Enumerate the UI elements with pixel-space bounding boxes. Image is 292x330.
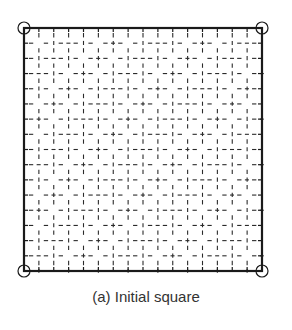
initial-square-diagram bbox=[0, 0, 292, 285]
dashed-grid bbox=[29, 33, 264, 273]
figure-caption: (a) Initial square bbox=[0, 288, 292, 305]
